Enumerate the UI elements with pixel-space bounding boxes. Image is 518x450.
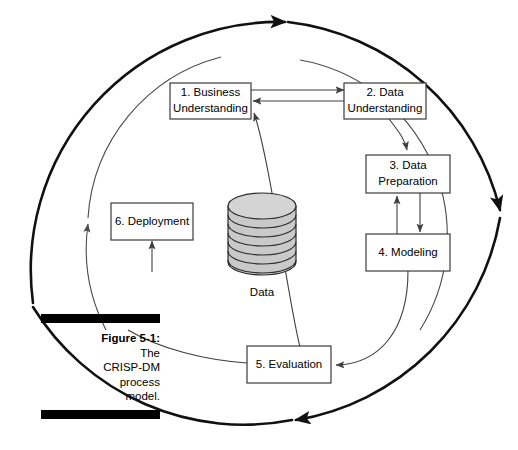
inner-ring-arc-upper-left [88,57,221,218]
caption-line-3: process [16,375,160,390]
node-data-understanding-line1: 2. Data [366,86,404,98]
caption-line-4: model. [16,389,160,404]
node-evaluation-label: 5. Evaluation [256,358,323,370]
node-business-understanding-line2: Understanding [173,102,248,114]
caption-rule-bottom [41,410,160,419]
node-data-preparation[interactable]: 3. Data Preparation [366,155,450,193]
figure-caption: Figure 5-1: The CRISP-DM process model. [16,314,160,419]
caption-line-2: CRISP-DM [16,360,160,375]
data-store-label: Data [250,286,275,298]
node-deployment[interactable]: 6. Deployment [111,203,193,240]
caption-rule-top [41,314,160,323]
node-data-preparation-line2: Preparation [378,175,437,187]
figure-crisp-dm: Data 1. Business Understanding 2. Data U… [0,0,518,450]
data-cylinder: Data [228,193,296,298]
node-data-preparation-line1: 3. Data [389,159,427,171]
arrow-data-understanding-to-preparation [389,119,407,150]
node-data-understanding-line2: Understanding [348,102,423,114]
node-modeling[interactable]: 4. Modeling [366,234,450,271]
caption-line-1: The [16,346,160,361]
arrow-modeling-to-evaluation [336,271,408,365]
node-business-understanding[interactable]: 1. Business Understanding [170,83,251,119]
node-deployment-label: 6. Deployment [115,215,190,227]
caption-label: Figure 5-1: [16,331,160,346]
node-modeling-label: 4. Modeling [378,246,437,258]
node-data-understanding[interactable]: 2. Data Understanding [344,83,426,119]
caption-text: Figure 5-1: The CRISP-DM process model. [16,331,160,404]
node-evaluation[interactable]: 5. Evaluation [247,346,331,383]
node-business-understanding-line1: 1. Business [181,86,241,98]
